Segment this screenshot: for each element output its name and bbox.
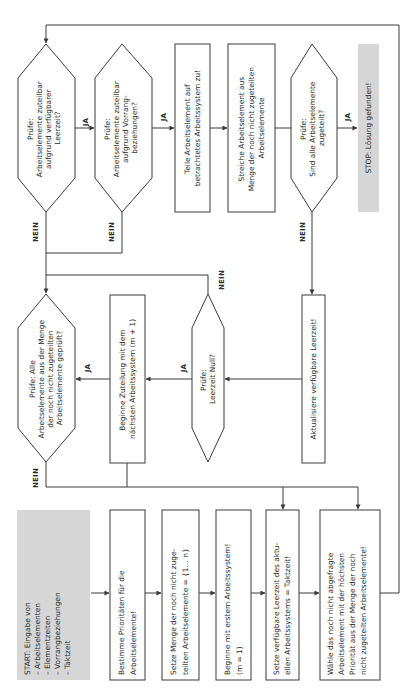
terminal-stop: STOP: Lösung gefunden! [358, 44, 379, 212]
svg-text:STOP: Lösung gefunden!: STOP: Lösung gefunden! [364, 82, 373, 173]
process-priorities: Bestimme Prioritäten für die Arbeitselem… [110, 510, 145, 680]
process-set-elements: Setze Menge der noch nicht zuge- teilten… [162, 510, 199, 680]
process-choose: Wähle das noch nicht abgefragte Arbeitse… [320, 510, 380, 680]
terminal-start: START: Eingabe von – Arbeitselementen – … [17, 510, 90, 680]
svg-text:Teile Arbeitselement auf: Teile Arbeitselement auf betrachtetes Ar… [183, 70, 202, 186]
label-ja-checkallchecked: JA [84, 363, 92, 373]
process-next-system: Beginne Zuteilung mit dem nächsten Arbei… [110, 295, 145, 463]
decision-check-time: Prüfe: Arbeitselemente zuteilbar aufgrun… [18, 44, 75, 212]
label-ja-checkprecedence: JA [160, 112, 168, 122]
label-nein-checkallassigned: NEIN [299, 222, 307, 242]
decision-check-all-assigned: Prüfe: Sind alle Arbeitselemente zugetei… [291, 44, 337, 212]
flowchart: Prüfe: Arbeitselemente zuteilbar aufgrun… [0, 0, 418, 692]
decision-check-all-checked: Prüfe: Alle Arbeitselemente aus der Meng… [18, 294, 75, 462]
label-ja-checkallassigned: JA [344, 112, 352, 122]
decision-check-idle-zero: Prüfe: Leerzeit Null? [192, 294, 224, 462]
svg-text:Beginne Zuteilung mit dem: Beginne Zuteilung mit dem nächsten Arbei… [118, 319, 137, 439]
label-nein-checktime: NEIN [32, 222, 40, 242]
label-nein-checkprecedence: NEIN [108, 222, 116, 242]
process-assign: Teile Arbeitselement auf betrachtetes Ar… [175, 44, 210, 212]
edge-checkidlezero-nein [46, 275, 208, 294]
process-remove: Streiche Arbeitselement aus Menge der no… [228, 44, 275, 212]
process-update-idle: Aktualisiere verfügbare Leerzeit! [302, 295, 325, 463]
svg-text:Aktualisiere verfügbare Leerze: Aktualisiere verfügbare Leerzeit! [309, 318, 318, 439]
label-ja-checktime: JA [82, 117, 90, 127]
edge-checkallchecked-nein [46, 462, 358, 509]
process-set-idle: Setze verfügbare Leerzeit des aktu- elle… [266, 510, 299, 680]
label-nein-checkidlezero: NEIN [218, 270, 226, 290]
process-first-system: Beginne mit erstem Arbeitssystem! (m = 1… [216, 510, 251, 680]
label-ja-checkidlezero: JA [180, 363, 188, 373]
decision-check-precedence: Prüfe: Arbeitselemente zuteilbar aufgrun… [95, 44, 152, 212]
label-nein-checkallchecked: NEIN [32, 468, 40, 488]
